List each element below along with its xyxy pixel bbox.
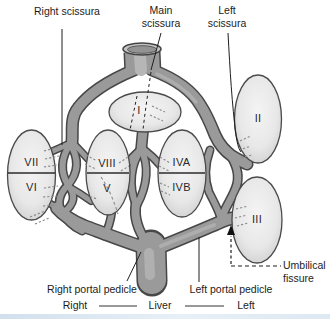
label-main-scissura: Main scissura [135,4,187,30]
label-left-portal-pedicle: Left portal pedicle [190,283,273,296]
segment-label-vi: VI [26,181,37,192]
segment-label-i: I [137,105,140,116]
liver-segments-diagram: Right scissura Main scissura Left scissu… [0,0,330,319]
label-umbilical-fissure: Umbilical fissure [283,259,330,285]
segment-label-ivb: IVB [172,182,191,193]
segment-ellipse-i [109,92,181,132]
footer-label-left: Left [237,299,255,312]
footer-label-liver: Liver [149,299,172,312]
footer-label-right: Right [63,299,88,312]
diagram-artwork [0,0,330,319]
label-left-scissura: Left scissura [202,4,252,30]
segment-label-v: V [103,182,111,193]
segment-label-ii: II [255,113,262,124]
segment-ellipse-vii-vi [8,130,56,220]
page-bottom-strip [0,314,330,319]
label-right-portal-pedicle: Right portal pedicle [47,283,137,296]
label-right-scissura: Right scissura [34,5,100,18]
segment-label-iva: IVA [173,157,191,168]
segment-label-iii: III [252,214,262,225]
segment-label-vii: VII [24,157,38,168]
segment-label-viii: VIII [98,158,116,169]
